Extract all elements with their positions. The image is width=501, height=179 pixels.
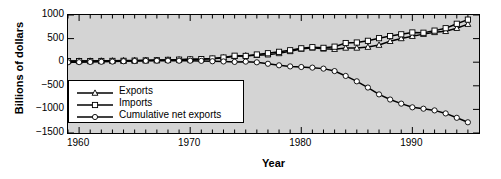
legend-label: Exports [119, 85, 153, 97]
x-tick-label: 1970 [167, 137, 211, 148]
x-tick-label: 1960 [56, 137, 100, 148]
legend-item-imports[interactable]: Imports [75, 97, 152, 109]
legend-square-marker-icon [75, 97, 115, 109]
legend-label: Cumulative net exports [119, 109, 221, 121]
chart-figure: Billions of dollars 10005000−500−1000−15… [0, 0, 501, 179]
series-exports [68, 21, 471, 63]
y-axis-tick-labels: 10005000−500−1000−1500 [22, 0, 64, 179]
legend-label: Imports [119, 97, 152, 109]
legend-item-exports[interactable]: Exports [75, 85, 153, 97]
y-tick-label: 500 [26, 32, 64, 43]
x-tick-label: 1980 [278, 137, 322, 148]
legend-circle-marker-icon [75, 109, 115, 121]
chart-legend: ExportsImportsCumulative net exports [68, 80, 244, 123]
y-tick-label: −1500 [26, 126, 64, 137]
y-tick-label: −500 [26, 79, 64, 90]
y-tick-label: 1000 [26, 8, 64, 19]
x-axis-title: Year [67, 157, 480, 169]
legend-triangle-marker-icon [75, 85, 115, 97]
x-tick-label: 1990 [389, 137, 433, 148]
y-tick-label: 0 [26, 55, 64, 66]
y-tick-label: −1000 [26, 102, 64, 113]
legend-item-cumulative-net-exports[interactable]: Cumulative net exports [75, 109, 221, 121]
